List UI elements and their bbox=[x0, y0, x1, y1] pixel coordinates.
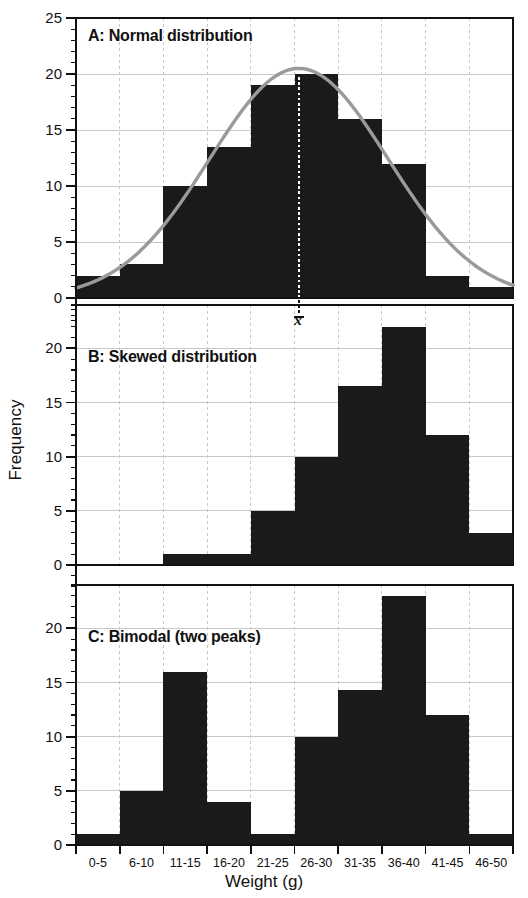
y-axis-tick-label: 20 bbox=[30, 339, 62, 356]
panel-a-title: A: Normal distribution bbox=[88, 27, 252, 45]
histogram-bar bbox=[338, 690, 382, 845]
y-axis-tick-label: 0 bbox=[30, 289, 62, 306]
histogram-bar bbox=[207, 554, 251, 565]
y-axis-tick-label: 5 bbox=[30, 502, 62, 519]
histogram-bar bbox=[426, 435, 470, 565]
y-axis-tick-label: 20 bbox=[30, 65, 62, 82]
y-axis-tick-label: 0 bbox=[30, 836, 62, 853]
y-axis-tick-label: 25 bbox=[30, 9, 62, 26]
x-axis-tick-label: 46-50 bbox=[463, 856, 519, 870]
plot-canvas bbox=[0, 0, 528, 898]
y-axis-tick-label: 5 bbox=[30, 233, 62, 250]
histogram-bar bbox=[76, 834, 120, 845]
y-axis-tick-label: 10 bbox=[30, 177, 62, 194]
histogram-bar bbox=[295, 457, 339, 565]
histogram-bar bbox=[251, 511, 295, 565]
y-axis-tick-label: 15 bbox=[30, 394, 62, 411]
histogram-bar bbox=[338, 119, 382, 298]
histogram-bar bbox=[382, 327, 426, 565]
histogram-bar bbox=[469, 834, 513, 845]
panel-a bbox=[66, 18, 513, 320]
mean-marker-overbar bbox=[294, 316, 304, 318]
y-axis-tick-label: 0 bbox=[30, 556, 62, 573]
y-axis-tick-label: 10 bbox=[30, 448, 62, 465]
histogram-bar bbox=[469, 287, 513, 298]
y-axis-tick-label: 15 bbox=[30, 121, 62, 138]
histogram-bar bbox=[251, 85, 295, 298]
y-axis-tick-label: 10 bbox=[30, 728, 62, 745]
histogram-bar bbox=[120, 791, 164, 845]
y-axis-tick-label: 5 bbox=[30, 782, 62, 799]
y-axis-title: Frequency bbox=[6, 380, 26, 500]
histogram-bar bbox=[251, 834, 295, 845]
histogram-bar bbox=[382, 596, 426, 845]
histogram-bar bbox=[295, 74, 339, 298]
histogram-figure: Frequency Weight (g) A: Normal distribut… bbox=[0, 0, 528, 898]
histogram-bar bbox=[469, 533, 513, 566]
y-axis-tick-label: 15 bbox=[30, 674, 62, 691]
x-axis-title: Weight (g) bbox=[0, 872, 528, 892]
histogram-bar bbox=[120, 264, 164, 298]
histogram-bar bbox=[207, 802, 251, 845]
histogram-bar bbox=[338, 386, 382, 565]
mean-marker-label: x bbox=[294, 312, 302, 329]
y-axis-tick-label: 20 bbox=[30, 619, 62, 636]
histogram-bar bbox=[163, 186, 207, 298]
histogram-bar bbox=[426, 715, 470, 845]
histogram-bar bbox=[163, 672, 207, 845]
histogram-bar bbox=[207, 147, 251, 298]
panel-c-title: C: Bimodal (two peaks) bbox=[88, 628, 261, 646]
panel-c bbox=[66, 585, 513, 854]
panel-b-title: B: Skewed distribution bbox=[88, 348, 257, 366]
histogram-bar bbox=[295, 737, 339, 845]
histogram-bar bbox=[163, 554, 207, 565]
histogram-bar bbox=[426, 276, 470, 298]
